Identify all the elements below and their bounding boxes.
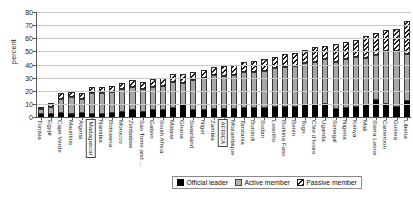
bar-tunisia[interactable]	[38, 107, 44, 118]
bar-sao-tome-and[interactable]	[140, 82, 146, 117]
bar-segment-passive	[211, 67, 217, 75]
x-axis-label-sierra-leone: Sierra Leone	[372, 120, 378, 178]
x-axis-label-text: Lesotho	[270, 120, 277, 142]
y-tick-mark-30	[33, 78, 36, 79]
x-axis-label-egypt: Egypt	[47, 120, 53, 178]
x-axis-label-algeria: Algeria	[78, 120, 84, 178]
x-axis-label-benin: Benin	[291, 120, 297, 178]
bar-segment-passive	[221, 66, 227, 77]
x-axis-label-text: AFRICA	[218, 119, 228, 147]
x-axis-label-swaziland: Swaziland	[189, 120, 195, 178]
bar-segment-passive	[251, 61, 257, 73]
x-axis-label-text: Uganda	[321, 120, 328, 142]
x-axis-label-africa: AFRICA	[220, 120, 226, 178]
x-axis-label-mozambique: Mozambique	[230, 120, 236, 178]
bar-segment-passive	[190, 72, 196, 80]
legend-swatch-passive-member	[297, 179, 304, 186]
bar-burundi[interactable]	[251, 61, 257, 117]
x-axis-label-text: Egypt	[47, 120, 54, 136]
x-axis-label-mali: Mali	[362, 120, 368, 178]
bar-segment-official	[363, 105, 369, 117]
chart-legend: Official leader Active member Passive me…	[172, 176, 362, 189]
bar-senegal[interactable]	[333, 44, 339, 118]
x-axis-label-text: Burundi	[250, 120, 257, 141]
x-axis-label-sao-tome-and: Sao Tome and ...	[139, 120, 145, 178]
bar-segment-official	[302, 105, 308, 117]
bar-segment-passive	[231, 65, 237, 76]
legend-label-active-member: Active member	[244, 179, 289, 186]
x-axis-label-text: Tunisia	[37, 120, 44, 140]
bar-segment-passive	[201, 70, 207, 78]
bar-segment-passive	[272, 57, 278, 69]
bar-segment-active	[333, 62, 339, 109]
bar-uganda[interactable]	[322, 46, 328, 117]
x-axis-label-text: Côte d'Ivoire	[311, 120, 318, 155]
bar-gabon[interactable]	[150, 79, 156, 117]
y-tick-label-50: 50	[25, 48, 33, 55]
bar-cape-verde[interactable]	[58, 93, 64, 117]
bar-nigeria[interactable]	[343, 42, 349, 117]
bar-ghana[interactable]	[180, 74, 186, 117]
bar-zambia[interactable]	[211, 67, 217, 117]
x-axis-label-text: Liberia	[402, 120, 409, 139]
bar-segment-active	[393, 51, 399, 106]
gridline-50	[37, 51, 411, 52]
bar-segment-passive	[322, 46, 328, 59]
bar-segment-active	[109, 92, 115, 113]
bar-segment-passive	[393, 29, 399, 51]
x-axis-label-text: Namibia	[98, 120, 105, 143]
x-axis-label-text: Tanzania	[240, 120, 247, 145]
gridline-30	[37, 78, 411, 79]
x-axis-label-togo: Togo	[301, 120, 307, 178]
x-axis-label-text: Kenya	[352, 120, 359, 138]
bar-segment-official	[343, 108, 349, 117]
x-axis-label-text: Togo	[301, 120, 308, 133]
bar-algeria[interactable]	[79, 93, 85, 117]
y-tick-label-80: 80	[25, 9, 33, 16]
x-axis-label-gabon: Gabon	[149, 120, 155, 178]
x-axis-label-morocco: Morocco	[118, 120, 124, 178]
x-axis-label-text: Zambia	[209, 120, 216, 141]
legend-item-passive-member: Passive member	[297, 179, 357, 186]
bar-togo[interactable]	[302, 50, 308, 117]
x-axis-label-text: Gabon	[149, 120, 156, 139]
bar-benin[interactable]	[292, 53, 298, 117]
bar-segment-official	[231, 109, 237, 117]
bar-swaziland[interactable]	[190, 72, 196, 117]
bar-segment-official	[180, 105, 186, 117]
plot-area	[36, 12, 411, 118]
gridline-40	[37, 65, 411, 66]
legend-item-active-member: Active member	[235, 179, 290, 186]
bar-zimbabwe[interactable]	[129, 80, 135, 117]
x-axis-label-text: Cameroon	[382, 120, 389, 149]
bar-segment-official	[261, 108, 267, 117]
bar-malawi[interactable]	[170, 74, 176, 117]
bar-segment-active	[68, 97, 74, 114]
bar-segment-official	[333, 109, 339, 117]
gridline-70	[37, 25, 411, 26]
bar-burkina-faso[interactable]	[282, 54, 288, 117]
bar-segment-active	[282, 67, 288, 106]
x-axis-label-text: Sierra Leone	[372, 120, 379, 155]
y-tick-mark-80	[33, 12, 36, 13]
bar-lesotho[interactable]	[272, 57, 278, 117]
gridline-20	[37, 91, 411, 92]
bar-segment-passive	[140, 82, 146, 90]
y-axis-ticks: 01020304050607080	[14, 12, 33, 117]
x-axis-label-madagascar: Madagascar	[88, 120, 94, 178]
bar-morocco[interactable]	[119, 83, 125, 117]
x-axis-label-text: Burkina Faso	[281, 120, 288, 156]
x-axis-label-text: Ghana	[179, 120, 186, 139]
bar-segment-official	[221, 109, 227, 117]
bar-tanzania[interactable]	[241, 62, 247, 117]
bar-south-africa[interactable]	[160, 78, 166, 117]
x-axis-label-niger: Niger	[200, 120, 206, 178]
x-axis-label-text: Guinea	[392, 120, 399, 140]
x-axis-label-cape-verde: Cape Verde	[57, 120, 63, 178]
bar-segment-passive	[160, 78, 166, 86]
bar-segment-official	[282, 107, 288, 118]
x-axis-label-senegal: Senegal	[332, 120, 338, 178]
bar-c-te-d-ivoire[interactable]	[312, 47, 318, 117]
bar-liberia[interactable]	[404, 21, 410, 117]
bar-sudan[interactable]	[261, 59, 267, 117]
